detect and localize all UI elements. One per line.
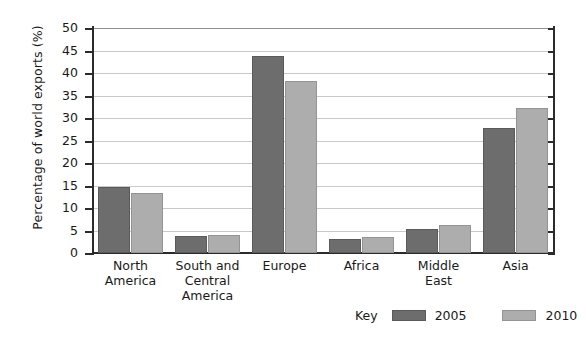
legend-item-2010: 2010	[502, 308, 577, 323]
y-tick-label: 50	[38, 22, 78, 35]
bar-africa-2010	[362, 237, 394, 253]
legend-label-2005: 2005	[435, 308, 467, 323]
bar-south-and-central-america-2005	[175, 236, 207, 253]
plot-area	[92, 28, 554, 253]
axis-tick	[85, 51, 92, 53]
y-tick-label: 30	[38, 112, 78, 125]
x-tick-label-line: America	[160, 288, 256, 303]
legend-label-2010: 2010	[545, 308, 577, 323]
chart-legend: Key 2005 2010	[355, 308, 577, 323]
bar-europe-2010	[285, 81, 317, 253]
y-tick-label: 40	[38, 67, 78, 80]
axis-tick	[85, 96, 92, 98]
y-tick-label: 20	[38, 157, 78, 170]
x-tick-label-line: Central	[160, 273, 256, 288]
y-axis-title: Percentage of world exports (%)	[30, 3, 45, 253]
bar-south-and-central-america-2010	[208, 235, 240, 253]
axis-tick	[85, 231, 92, 233]
legend-swatch-2010	[502, 310, 536, 321]
axis-tick	[85, 28, 92, 30]
bar-middle-east-2010	[439, 225, 471, 253]
bar-middle-east-2005	[406, 229, 438, 253]
legend-title: Key	[355, 308, 378, 323]
axis-tick	[85, 73, 92, 75]
bar-asia-2005	[483, 128, 515, 253]
y-tick-label: 15	[38, 180, 78, 193]
bar-north-america-2010	[131, 193, 163, 253]
axis-tick	[85, 118, 92, 120]
bar-europe-2005	[252, 56, 284, 253]
x-tick-label-line: Asia	[468, 258, 564, 273]
legend-item-2005: 2005	[392, 308, 467, 323]
y-tick-label: 10	[38, 202, 78, 215]
y-tick-label: 35	[38, 90, 78, 103]
x-tick-label: Asia	[468, 258, 564, 273]
axis-tick	[85, 186, 92, 188]
axis-tick	[85, 163, 92, 165]
y-tick-label: 45	[38, 45, 78, 58]
axis-tick	[85, 253, 92, 255]
bar-north-america-2005	[98, 187, 130, 253]
y-tick-label: 5	[38, 225, 78, 238]
y-tick-label: 0	[38, 247, 78, 260]
x-tick-label-line: East	[391, 273, 487, 288]
axis-tick	[85, 208, 92, 210]
axis-tick	[85, 141, 92, 143]
bar-africa-2005	[329, 239, 361, 253]
y-tick-label: 25	[38, 135, 78, 148]
bar-asia-2010	[516, 108, 548, 253]
legend-swatch-2005	[392, 310, 426, 321]
bar-chart: Percentage of world exports (%) 05101520…	[0, 0, 586, 353]
